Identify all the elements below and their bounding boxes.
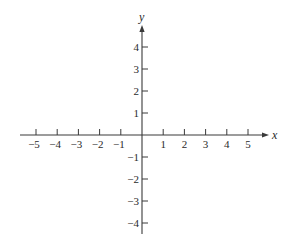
x-ticks: −5−4−3−2−112345 (28, 129, 251, 150)
y-tick-label: 4 (134, 41, 140, 53)
y-tick-label: −1 (127, 151, 139, 163)
x-axis-arrow-icon (262, 132, 269, 137)
y-tick-label: −4 (127, 217, 139, 229)
x-axis-label: x (271, 128, 278, 142)
y-tick-label: 2 (134, 85, 140, 97)
x-tick-label: 5 (245, 138, 251, 150)
x-tick-label: 4 (224, 138, 230, 150)
x-tick-label: −4 (49, 138, 61, 150)
y-tick-label: 1 (134, 107, 140, 119)
y-tick-label: 3 (134, 63, 140, 75)
y-tick-label: −3 (127, 195, 139, 207)
y-tick-label: −2 (127, 173, 139, 185)
x-tick-label: −5 (28, 138, 40, 150)
x-tick-label: 3 (203, 138, 209, 150)
y-axis (139, 25, 144, 234)
x-tick-label: 1 (160, 138, 166, 150)
y-axis-label: y (138, 10, 145, 24)
coordinate-plane: −5−4−3−2−112345 4321−1−2−3−4 x y (0, 0, 291, 234)
x-tick-label: −1 (113, 138, 125, 150)
y-axis-arrow-icon (139, 25, 144, 32)
x-tick-label: −3 (71, 138, 83, 150)
x-tick-label: −2 (92, 138, 104, 150)
x-tick-label: 2 (182, 138, 188, 150)
